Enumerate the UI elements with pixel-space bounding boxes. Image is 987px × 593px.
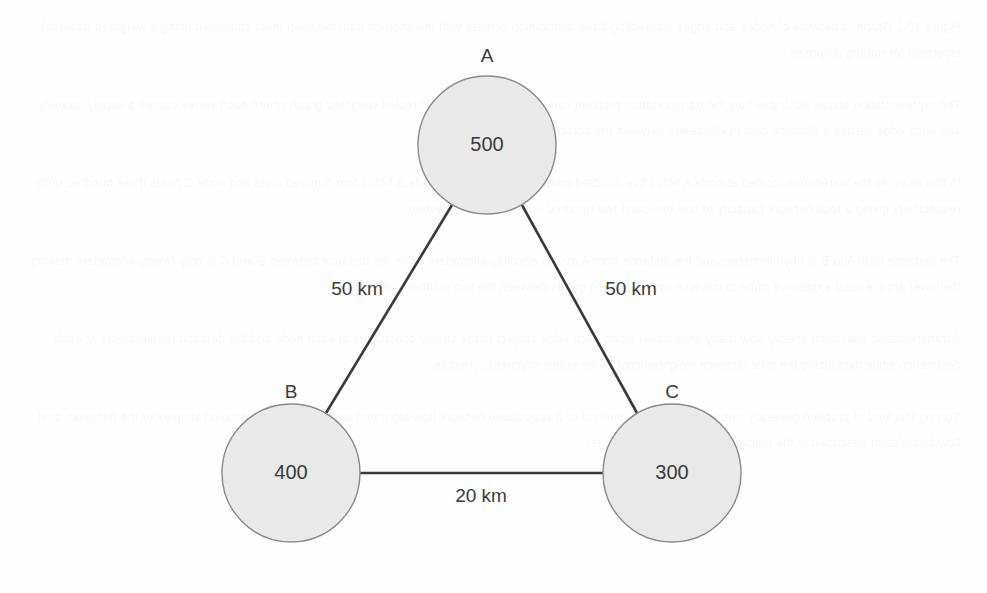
node-b-value: 400 [274,461,307,483]
node-b[interactable]: 400 B [222,381,360,542]
edge-a-c-label: 50 km [605,278,657,299]
node-c-value: 300 [655,461,688,483]
edge-b-c-label: 20 km [455,485,507,506]
node-b-label: B [285,381,298,402]
node-c[interactable]: 300 C [603,381,741,542]
node-a[interactable]: 500 A [418,45,556,214]
edge-a-b [326,205,452,413]
edge-a-b-label: 50 km [331,278,383,299]
node-a-value: 500 [470,133,503,155]
node-group: 500 A 400 B 300 C [222,45,741,542]
node-c-label: C [665,381,679,402]
graph-diagram: 500 A 400 B 300 C 50 km 50 km 20 km [0,0,987,593]
diagram-page: Figure 10-1 Graph a network of nodes and… [0,0,987,593]
node-a-label: A [481,45,494,66]
edge-group [326,205,637,473]
edge-a-c [522,205,637,413]
